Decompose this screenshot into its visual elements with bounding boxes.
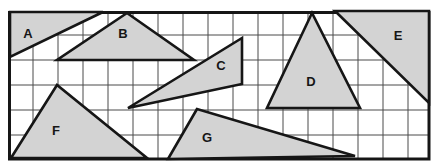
triangle-B-label: B [118, 26, 127, 41]
triangle-D-label: D [306, 74, 315, 89]
triangle-E-label: E [394, 28, 403, 43]
triangles-grid-figure: ABCDEFG [0, 0, 434, 164]
triangle-A-label: A [23, 26, 33, 41]
triangle-F-label: F [52, 123, 60, 138]
triangle-C-label: C [216, 58, 226, 73]
geometry-figure-canvas: ABCDEFG [0, 0, 434, 164]
triangle-G-label: G [202, 130, 212, 145]
